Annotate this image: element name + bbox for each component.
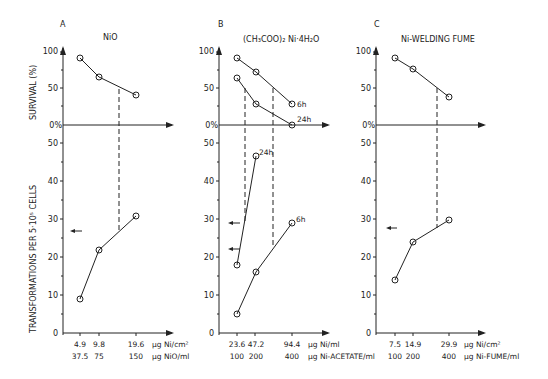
tick: 40 <box>361 177 371 186</box>
panel-a <box>60 46 174 336</box>
tick: 100 <box>199 47 214 56</box>
tick: 20 <box>204 253 214 262</box>
panel-a-letter: A <box>60 20 66 29</box>
tick: 10 <box>204 291 214 300</box>
y-label-transformations: TRANSFORMATIONS PER 5·10⁵ CELLS <box>29 185 38 334</box>
tick: 30 <box>361 215 371 224</box>
tick: 40 <box>48 177 58 186</box>
x-tick: 29.9 <box>441 340 458 349</box>
series-label: 6h <box>296 215 306 224</box>
x-tick: 94.4 <box>284 340 301 349</box>
x-tick: 37.5 <box>72 352 89 361</box>
tick: 10 <box>361 291 371 300</box>
tick: 0 <box>53 329 58 338</box>
tick: 50 <box>48 139 58 148</box>
tick: 100 <box>43 47 58 56</box>
tick: 20 <box>361 253 371 262</box>
x-unit: μg Ni/cm² <box>152 340 189 349</box>
x-unit: μg Ni/ml <box>308 340 340 349</box>
tick: 40 <box>204 177 214 186</box>
x-unit: μg Ni-FUME/ml <box>464 352 519 361</box>
x-tick: 19.6 <box>128 340 145 349</box>
series-label: 24h <box>297 115 312 124</box>
series-label: 24h <box>259 148 274 157</box>
x-tick: 400 <box>442 352 457 361</box>
tick: 10 <box>48 291 58 300</box>
y-label-survival: SURVIVAL (%) <box>29 65 38 120</box>
tick: 0 <box>209 329 214 338</box>
x-tick: 400 <box>285 352 300 361</box>
panel-b-letter: B <box>218 20 224 29</box>
panel-c-letter: C <box>374 20 380 29</box>
x-unit: μg NiO/ml <box>152 352 189 361</box>
tick: 0% <box>205 121 218 130</box>
x-tick: 100 <box>230 352 245 361</box>
x-tick: 14.9 <box>405 340 422 349</box>
tick: 30 <box>48 215 58 224</box>
panel-c-title: Ni-WELDING FUME <box>401 35 475 44</box>
panel-c <box>373 46 486 336</box>
series-label: 6h <box>297 100 307 109</box>
x-tick: 150 <box>129 352 144 361</box>
tick: 0% <box>49 121 62 130</box>
tick: 0 <box>366 329 371 338</box>
x-tick: 23.6 <box>229 340 246 349</box>
tick: 50 <box>204 139 214 148</box>
tick: 20 <box>48 253 58 262</box>
figure: SURVIVAL (%) TRANSFORMATIONS PER 5·10⁵ C… <box>0 0 548 379</box>
x-unit: μg Ni/cm² <box>464 340 501 349</box>
tick: 50 <box>204 84 214 93</box>
tick: 50 <box>361 84 371 93</box>
panel-b-labels: B (CH₃COO)₂ Ni·4H₂O 100 50 0% 50 40 30 2… <box>199 20 375 361</box>
panel-c-labels: C Ni-WELDING FUME 100 50 0% 50 40 30 20 … <box>356 20 520 361</box>
tick: 30 <box>204 215 214 224</box>
x-unit: μg Ni-ACETATE/ml <box>308 352 375 361</box>
panel-a-title: NiO <box>103 33 118 42</box>
x-tick: 7.5 <box>389 340 401 349</box>
tick: 50 <box>361 139 371 148</box>
panel-b-title: (CH₃COO)₂ Ni·4H₂O <box>243 35 319 44</box>
tick: 100 <box>356 47 371 56</box>
tick: 0% <box>362 121 375 130</box>
x-tick: 47.2 <box>248 340 265 349</box>
x-tick: 100 <box>388 352 403 361</box>
panel-a-labels: A NiO 100 50 0% 50 40 30 20 10 0 4.9 9.8… <box>43 20 190 361</box>
x-tick: 4.9 <box>74 340 86 349</box>
x-tick: 200 <box>406 352 421 361</box>
tick: 50 <box>48 84 58 93</box>
x-tick: 75 <box>94 352 104 361</box>
panel-b <box>216 46 330 336</box>
x-tick: 9.8 <box>93 340 105 349</box>
x-tick: 200 <box>249 352 264 361</box>
